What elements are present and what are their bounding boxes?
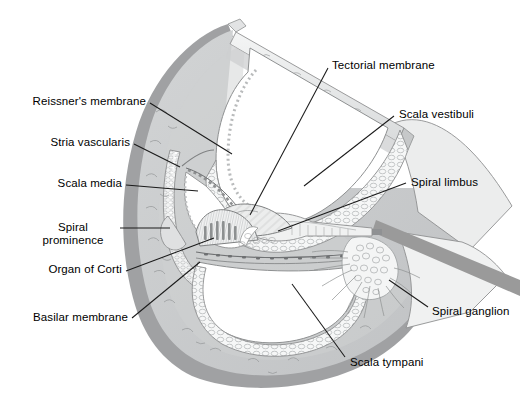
label-reissners-membrane: Reissner's membrane: [0, 95, 146, 108]
label-scala-media: Scala media: [0, 177, 122, 190]
label-spiral-ganglion: Spiral ganglion: [432, 305, 510, 318]
label-stria-vascularis: Stria vascularis: [0, 136, 130, 149]
label-organ-of-corti: Organ of Corti: [0, 263, 122, 276]
label-basilar-membrane-text: Basilar membrane: [0, 311, 128, 324]
cochlea-diagram: Reissner's membrane Stria vascularis Sca…: [0, 0, 528, 397]
cochlea-illustration: [0, 0, 528, 397]
label-scala-tympani: Scala tympani: [350, 356, 424, 369]
label-spiral-prominence: Spiral prominence: [30, 221, 116, 247]
label-spiral-limbus: Spiral limbus: [411, 176, 478, 189]
label-scala-vestibuli: Scala vestibuli: [399, 108, 474, 121]
label-tectorial-membrane: Tectorial membrane: [332, 59, 435, 72]
